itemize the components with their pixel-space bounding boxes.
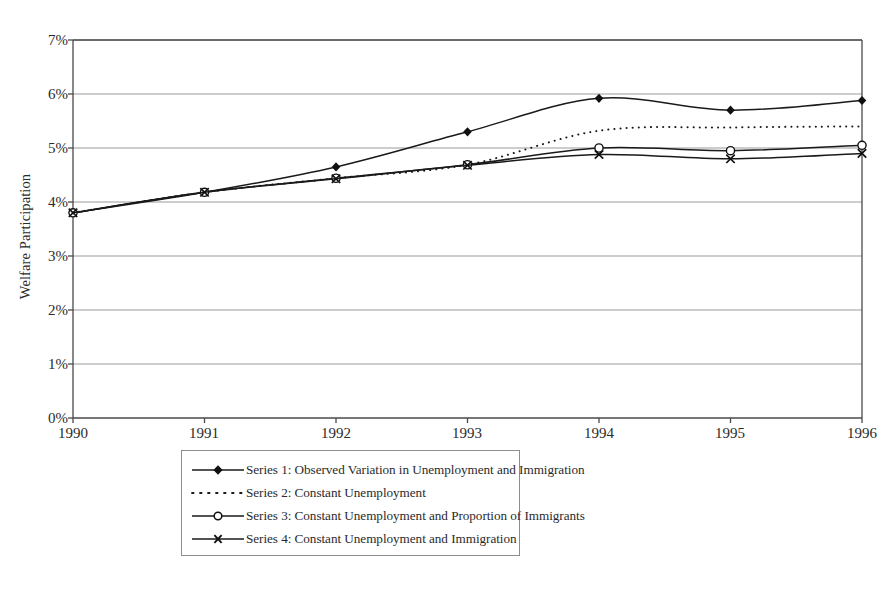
legend-item-series-4[interactable]: Series 4: Constant Unemployment and Immi…	[182, 527, 519, 550]
legend-label-series-1: Series 1: Observed Variation in Unemploy…	[246, 462, 584, 478]
legend-key-filled-diamond-icon	[190, 463, 246, 477]
chart-figure: Welfare Participation 7% 6% 5% 4% 3% 2% …	[0, 0, 887, 607]
legend-key-dotted-line-icon	[190, 486, 246, 500]
legend-key-open-circle-icon	[190, 509, 246, 523]
legend-label-series-2: Series 2: Constant Unemployment	[246, 485, 426, 501]
x-tick-label: 1992	[296, 426, 376, 441]
x-tick-label: 1990	[33, 426, 113, 441]
x-tick-label: 1995	[690, 426, 770, 441]
chart-legend: Series 1: Observed Variation in Unemploy…	[181, 450, 520, 556]
legend-label-series-4: Series 4: Constant Unemployment and Immi…	[246, 531, 517, 547]
legend-item-series-1[interactable]: Series 1: Observed Variation in Unemploy…	[182, 458, 519, 481]
x-tick-label: 1996	[822, 426, 887, 441]
legend-label-series-3: Series 3: Constant Unemployment and Prop…	[246, 508, 585, 524]
x-tick-label: 1991	[164, 426, 244, 441]
legend-key-cross-x-icon	[190, 532, 246, 546]
legend-item-series-2[interactable]: Series 2: Constant Unemployment	[182, 481, 519, 504]
x-tick-label: 1994	[559, 426, 639, 441]
legend-item-series-3[interactable]: Series 3: Constant Unemployment and Prop…	[182, 504, 519, 527]
x-tick-label: 1993	[427, 426, 507, 441]
